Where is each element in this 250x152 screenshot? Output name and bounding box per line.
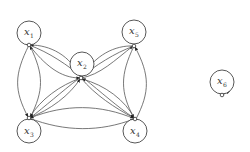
node-subscript: 4 <box>136 131 140 138</box>
port <box>133 117 137 121</box>
port <box>79 76 83 80</box>
port <box>27 116 31 120</box>
node-subscript: 1 <box>30 32 34 39</box>
node-subscript: 6 <box>223 81 227 88</box>
edge-x4-x5 <box>135 47 146 119</box>
port <box>132 44 136 48</box>
edge-x3-x4 <box>29 118 134 129</box>
edge-x5-x4 <box>124 46 135 118</box>
port <box>220 93 224 97</box>
node-x6[interactable]: x 6 <box>210 70 234 97</box>
node-x3[interactable]: x 3 <box>17 116 41 143</box>
graph-canvas: x 1 x 2 x 3 x 4 x 5 <box>0 0 250 152</box>
node-x5[interactable]: x 5 <box>122 20 146 48</box>
node-subscript: 2 <box>83 63 87 70</box>
port <box>27 43 31 47</box>
edges <box>18 45 230 129</box>
node-subscript: 3 <box>30 131 34 138</box>
node-x4[interactable]: x 4 <box>123 117 147 143</box>
node-subscript: 5 <box>135 31 139 38</box>
node-x1[interactable]: x 1 <box>17 21 41 47</box>
edge-x1-x3 <box>18 45 29 117</box>
